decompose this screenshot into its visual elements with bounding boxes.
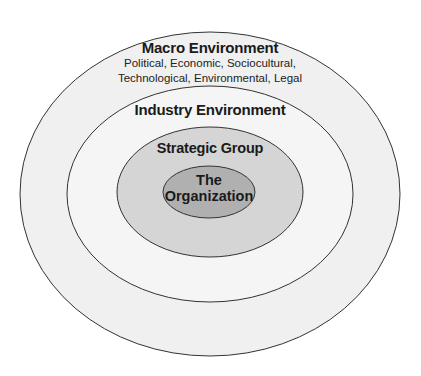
organization-label: The Organization [159,172,259,204]
organization-title-line2: Organization [159,188,259,204]
organization-title-line1: The [159,172,259,188]
macro-environment-title: Macro Environment [60,39,360,56]
macro-environment-factors-line2: Technological, Environmental, Legal [60,71,360,86]
macro-environment-factors-line1: Political, Economic, Sociocultural, [60,56,360,71]
strategic-group-title: Strategic Group [110,140,310,156]
industry-environment-title: Industry Environment [60,101,360,118]
macro-environment-label: Macro Environment Political, Economic, S… [60,39,360,86]
